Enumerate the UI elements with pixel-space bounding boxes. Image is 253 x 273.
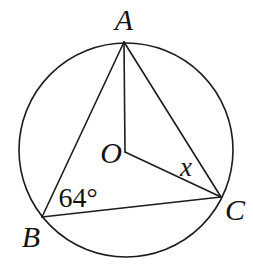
geometry-figure: ABCOx64° (0, 0, 253, 273)
label-point-A: A (113, 3, 134, 36)
circumcircle (19, 43, 233, 257)
segment-OA (124, 42, 125, 152)
label-angle-x: x (179, 152, 192, 182)
label-point-C: C (225, 193, 246, 226)
circle-triangle-diagram: ABCOx64° (0, 0, 253, 273)
label-angle-B: 64° (58, 182, 97, 213)
label-point-B: B (22, 220, 40, 253)
label-center-O: O (100, 136, 122, 169)
